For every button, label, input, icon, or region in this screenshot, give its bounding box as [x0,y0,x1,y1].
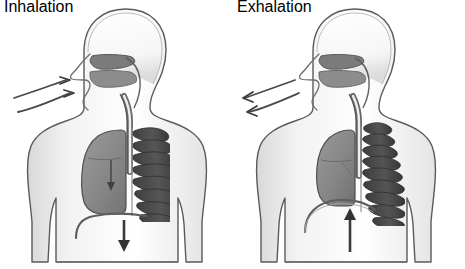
respiration-illustration: Mechanics of Breathing: Inhalation and E… [0,0,465,269]
panel-exhalation: Exhalation [233,0,465,269]
panel-inhalation-label: Inhalation [4,0,73,15]
airflow-arrows-inward [14,77,74,112]
panel-exhalation-label: Exhalation [237,0,312,15]
airflow-arrows-outward [243,80,299,116]
exhalation-diagram: Exhalation [233,0,465,269]
inhalation-diagram: Inhalation [0,0,232,269]
panel-inhalation: Inhalation [0,0,232,269]
